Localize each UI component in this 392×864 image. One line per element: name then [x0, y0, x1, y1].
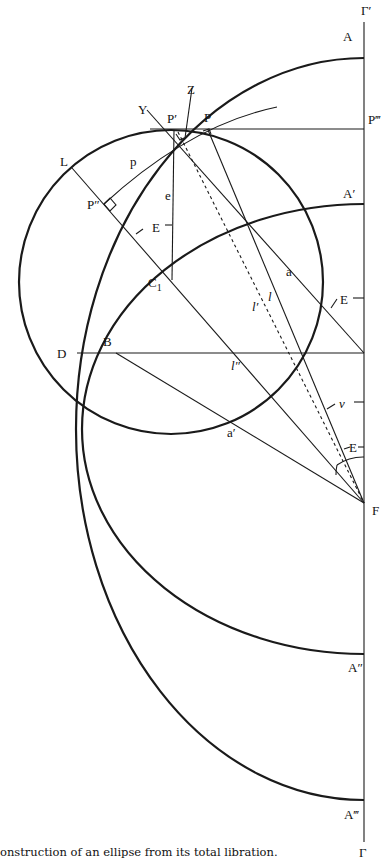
label-v: v: [339, 396, 345, 411]
label-e: e: [165, 188, 171, 203]
label-p-double: P″: [87, 197, 100, 212]
label-l-italic: l: [268, 289, 272, 304]
figure-caption: onstruction of an ellipse from its total…: [0, 845, 278, 859]
right-angle-marker-p-prime: [176, 134, 184, 140]
p-f-line: [208, 130, 364, 503]
label-a: A: [343, 29, 353, 44]
l-c1-f-line: [72, 168, 364, 503]
label-a-triple: A‴: [344, 807, 359, 822]
label-l-double: l″: [231, 358, 241, 373]
e-leader-1: [136, 229, 143, 234]
label-e-1: E: [152, 220, 160, 235]
outer-ellipse-arc: [76, 58, 364, 800]
e-leader-2: [331, 299, 337, 308]
label-a-double: A″: [348, 660, 363, 675]
v-leader: [327, 404, 335, 409]
angle-arc-2: [336, 465, 337, 475]
label-c1: C1: [148, 275, 162, 293]
label-y: Y: [138, 102, 148, 117]
label-a-prime: A′: [343, 186, 355, 201]
right-angle-marker-p-double: [104, 198, 116, 211]
label-p: P: [204, 110, 211, 125]
angle-arc-e: [337, 457, 364, 465]
label-a-prime-small: a′: [227, 425, 236, 440]
label-p-small: p: [130, 154, 137, 169]
label-e-3: E: [349, 440, 357, 455]
label-l: L: [60, 154, 68, 169]
label-gamma: Γ: [359, 845, 367, 861]
label-b: B: [103, 334, 112, 349]
label-l-prime: l′: [252, 299, 259, 314]
label-a-small: a: [286, 264, 292, 279]
label-d: D: [57, 346, 66, 361]
label-f: F: [372, 503, 379, 518]
label-e-2: E: [340, 292, 348, 307]
ellipse-construction-diagram: Γ′ A P‴ A′ Z Y P′ P L p P″ e E C1 a l l′…: [0, 0, 392, 864]
label-p-triple: P‴: [368, 112, 381, 127]
label-p-prime: P′: [167, 111, 177, 126]
label-z: Z: [187, 82, 195, 97]
label-gamma-prime: Γ′: [361, 3, 372, 18]
